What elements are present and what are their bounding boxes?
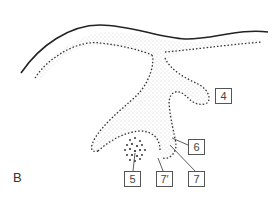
anatomical-diagram: 4 6 5 7′ 7 B <box>0 0 280 201</box>
label-5: 5 <box>124 171 141 187</box>
panel-letter: B <box>13 170 22 185</box>
label-6: 6 <box>188 139 205 155</box>
label-4: 4 <box>215 88 232 104</box>
label-7: 7 <box>188 171 205 187</box>
cell-cluster <box>124 137 146 162</box>
label-7-prime: 7′ <box>156 171 173 187</box>
